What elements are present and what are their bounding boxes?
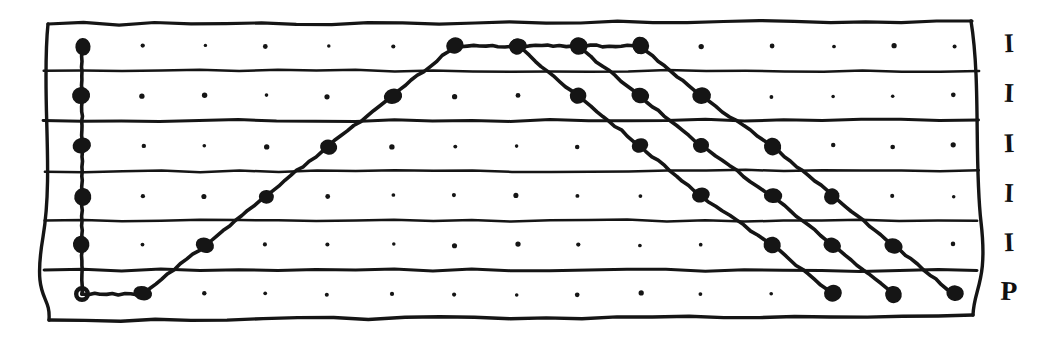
- grid-dot: [325, 293, 329, 297]
- data-point-marker[interactable]: [71, 85, 92, 105]
- data-point-marker[interactable]: [71, 234, 91, 255]
- lane-label-row-3: I: [993, 180, 1025, 208]
- data-point-marker[interactable]: [946, 285, 965, 302]
- grid-dot: [452, 193, 456, 197]
- grid-dot: [951, 242, 956, 247]
- grid-dot: [325, 194, 330, 199]
- grid-dot: [453, 145, 457, 149]
- grid-dot: [770, 44, 775, 49]
- grid-dot: [575, 292, 580, 297]
- grid-dot: [201, 194, 206, 199]
- grid-dot: [452, 94, 457, 99]
- grid-dot: [892, 43, 897, 48]
- lane-label-row-2: I: [991, 129, 1027, 157]
- grid-dot: [951, 142, 956, 147]
- grid-dot: [389, 144, 394, 149]
- grid-dot: [575, 194, 579, 198]
- hand-drawn-grid-figure: [0, 0, 1061, 344]
- grid-dot: [142, 144, 146, 148]
- grid-dot: [452, 243, 457, 248]
- grid-dot: [513, 193, 518, 198]
- figure-root: IIIIIP: [0, 0, 1061, 344]
- grid-dot: [639, 194, 643, 198]
- grid-dot: [953, 45, 957, 49]
- grid-dot: [890, 145, 895, 150]
- grid-dot: [951, 92, 956, 97]
- grid-dot: [264, 144, 269, 149]
- grid-dot: [831, 143, 835, 147]
- grid-dot: [639, 290, 644, 295]
- data-point-marker[interactable]: [73, 186, 94, 207]
- grid-dot: [699, 243, 703, 247]
- grid-dot: [831, 95, 835, 99]
- grid-dot: [324, 94, 329, 99]
- grid-dot: [391, 44, 395, 48]
- grid-dot: [698, 292, 702, 296]
- grid-dot: [141, 194, 145, 198]
- grid-dot: [575, 145, 580, 150]
- grid-dot: [392, 242, 396, 246]
- grid-dot: [515, 144, 519, 148]
- grid-dot: [202, 144, 206, 148]
- grid-dot: [139, 94, 144, 99]
- grid-dot: [638, 244, 642, 248]
- grid-dot: [952, 195, 956, 199]
- data-point-marker[interactable]: [71, 135, 93, 155]
- lane-label-row-1: I: [992, 80, 1026, 108]
- grid-dot: [327, 44, 330, 47]
- grid-dot: [392, 193, 396, 197]
- grid-dot: [141, 43, 145, 47]
- grid-dot: [515, 293, 519, 297]
- grid-dot: [202, 93, 207, 98]
- grid-dot: [891, 94, 895, 98]
- grid-dot: [202, 291, 206, 295]
- grid-dot: [141, 243, 145, 247]
- grid-dot: [390, 292, 394, 296]
- grid-dot: [263, 291, 267, 295]
- grid-dot: [769, 292, 773, 296]
- grid-dot: [576, 242, 580, 246]
- grid-dot: [515, 241, 520, 246]
- grid-dot: [263, 44, 268, 49]
- grid-dot: [832, 45, 836, 49]
- grid-dot: [699, 44, 704, 49]
- lane-label-row-4: I: [992, 228, 1026, 256]
- grid-dot: [890, 194, 894, 198]
- data-point-marker[interactable]: [75, 38, 91, 56]
- lane-label-row-0: I: [993, 29, 1025, 57]
- grid-dot: [516, 93, 521, 98]
- grid-dot: [452, 293, 456, 297]
- grid-dot: [769, 95, 773, 99]
- polyline-segment: [455, 45, 517, 47]
- grid-dot: [263, 242, 267, 246]
- grid-dot: [204, 44, 207, 47]
- lane-label-row-5: P: [991, 278, 1026, 306]
- grid-dot: [325, 242, 329, 246]
- data-point-marker[interactable]: [822, 282, 845, 304]
- grid-dot: [265, 93, 269, 97]
